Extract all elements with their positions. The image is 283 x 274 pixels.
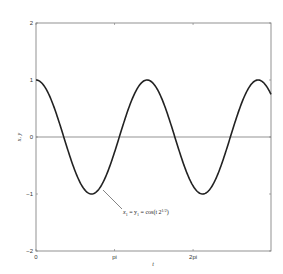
y-axis-label: x, y — [16, 133, 22, 143]
chart: 0pi2pi −2−1012 x1 = y1 = cos(t 21/2) t x… — [0, 0, 283, 274]
y-tick-label: 2 — [30, 20, 34, 26]
x-tick-label: pi — [112, 254, 117, 260]
y-tick-label: −2 — [26, 248, 34, 254]
y-tick-label: −1 — [26, 191, 34, 197]
x-axis-label: t — [152, 261, 154, 267]
x-tick-label: 2pi — [189, 254, 197, 260]
y-tick-label: 0 — [30, 134, 34, 140]
y-tick-label: 1 — [30, 77, 34, 83]
x-tick-label: 0 — [34, 254, 38, 260]
